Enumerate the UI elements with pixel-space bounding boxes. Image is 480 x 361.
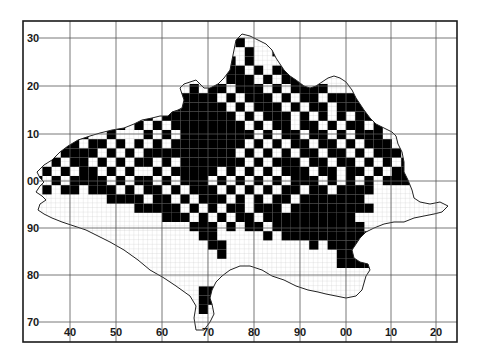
occupied-tetrad <box>217 102 226 111</box>
occupied-tetrad <box>245 75 254 84</box>
occupied-tetrad <box>236 213 245 222</box>
occupied-tetrad <box>392 148 401 157</box>
occupied-tetrad <box>346 121 355 130</box>
occupied-tetrad <box>116 112 125 121</box>
occupied-tetrad <box>144 84 153 93</box>
occupied-tetrad <box>162 84 171 93</box>
occupied-tetrad <box>309 93 318 102</box>
occupied-tetrad <box>272 222 281 231</box>
occupied-tetrad <box>42 148 51 157</box>
occupied-tetrad <box>337 240 346 249</box>
occupied-tetrad <box>107 148 116 157</box>
occupied-tetrad <box>447 167 456 176</box>
occupied-tetrad <box>337 148 346 157</box>
occupied-tetrad <box>33 158 42 167</box>
occupied-tetrad <box>98 139 107 148</box>
occupied-tetrad <box>309 185 318 194</box>
occupied-tetrad <box>291 84 300 93</box>
x-tick-label: 50 <box>110 326 122 338</box>
occupied-tetrad <box>318 222 327 231</box>
y-axis-labels: 30201000908070 <box>27 32 39 328</box>
occupied-tetrad <box>318 130 327 139</box>
occupied-tetrad <box>190 167 199 176</box>
occupied-tetrad <box>236 130 245 139</box>
occupied-tetrad <box>190 121 199 130</box>
occupied-tetrad <box>291 185 300 194</box>
occupied-tetrad <box>328 240 337 249</box>
occupied-tetrad <box>328 204 337 213</box>
x-tick-label: 60 <box>156 326 168 338</box>
occupied-tetrad <box>61 139 70 148</box>
y-tick-label: 70 <box>27 316 39 328</box>
occupied-tetrad <box>245 185 254 194</box>
occupied-tetrad <box>364 158 373 167</box>
occupied-tetrad <box>107 194 116 203</box>
occupied-tetrad <box>153 148 162 157</box>
occupied-tetrad <box>79 167 88 176</box>
occupied-tetrad <box>88 185 97 194</box>
occupied-tetrad <box>318 231 327 240</box>
occupied-tetrad <box>300 84 309 93</box>
occupied-tetrad <box>364 250 373 259</box>
occupied-tetrad <box>226 139 235 148</box>
occupied-tetrad <box>88 167 97 176</box>
occupied-tetrad <box>226 204 235 213</box>
occupied-tetrad <box>272 102 281 111</box>
occupied-tetrad <box>180 130 189 139</box>
occupied-tetrad <box>337 259 346 268</box>
occupied-tetrad <box>226 158 235 167</box>
occupied-tetrad <box>337 213 346 222</box>
occupied-tetrad <box>33 139 42 148</box>
occupied-tetrad <box>355 93 364 102</box>
occupied-tetrad <box>79 121 88 130</box>
occupied-tetrad <box>272 112 281 121</box>
occupied-tetrad <box>337 112 346 121</box>
occupied-tetrad <box>328 167 337 176</box>
occupied-tetrad <box>254 84 263 93</box>
occupied-tetrad <box>98 158 107 167</box>
occupied-tetrad <box>144 130 153 139</box>
occupied-tetrad <box>180 194 189 203</box>
occupied-tetrad <box>355 240 364 249</box>
occupied-tetrad <box>236 194 245 203</box>
occupied-tetrad <box>291 167 300 176</box>
occupied-tetrad <box>364 185 373 194</box>
occupied-tetrad <box>282 222 291 231</box>
occupied-tetrad <box>70 158 79 167</box>
occupied-tetrad <box>236 66 245 75</box>
occupied-tetrad <box>254 204 263 213</box>
occupied-tetrad <box>190 102 199 111</box>
occupied-tetrad <box>300 66 309 75</box>
occupied-tetrad <box>282 158 291 167</box>
occupied-tetrad <box>153 139 162 148</box>
occupied-tetrad <box>144 148 153 157</box>
occupied-tetrad <box>190 204 199 213</box>
occupied-tetrad <box>263 204 272 213</box>
y-tick-label: 90 <box>27 222 39 234</box>
occupied-tetrad <box>291 66 300 75</box>
occupied-tetrad <box>199 231 208 240</box>
occupied-tetrad <box>272 139 281 148</box>
occupied-tetrad <box>337 93 346 102</box>
x-tick-label: 00 <box>340 326 352 338</box>
occupied-tetrad <box>254 102 263 111</box>
occupied-tetrad <box>291 102 300 111</box>
occupied-tetrad <box>226 167 235 176</box>
occupied-tetrad <box>79 158 88 167</box>
occupied-tetrad <box>217 148 226 157</box>
occupied-tetrad <box>190 93 199 102</box>
occupied-tetrad <box>318 112 327 121</box>
occupied-tetrad <box>153 93 162 102</box>
occupied-tetrad <box>70 148 79 157</box>
occupied-tetrad <box>300 204 309 213</box>
occupied-tetrad <box>272 194 281 203</box>
occupied-tetrad <box>309 231 318 240</box>
occupied-tetrad <box>263 213 272 222</box>
occupied-tetrad <box>125 102 134 111</box>
occupied-tetrad <box>374 130 383 139</box>
occupied-tetrad <box>337 204 346 213</box>
occupied-tetrad <box>199 121 208 130</box>
occupied-tetrad <box>180 121 189 130</box>
occupied-tetrad <box>291 213 300 222</box>
occupied-tetrad <box>346 222 355 231</box>
